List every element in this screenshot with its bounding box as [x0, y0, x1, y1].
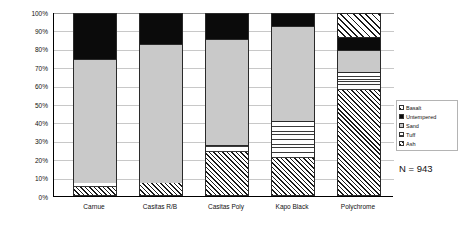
segment-untempered[interactable]: [205, 13, 249, 39]
y-tick-label: 10%: [8, 175, 48, 182]
legend-label: Tuff: [406, 132, 415, 138]
stacked-bar-chart: 100% 90% 80% 70% 60% 50% 40% 30% 20% 10%…: [0, 0, 465, 235]
y-tick-label: 70%: [8, 65, 48, 72]
segment-tuff[interactable]: [205, 145, 249, 152]
segment-sand[interactable]: [139, 44, 183, 183]
segment-ash[interactable]: [337, 90, 381, 196]
segment-untempered[interactable]: [271, 13, 315, 26]
sand-swatch-icon: [399, 123, 404, 128]
legend-item-sand[interactable]: Sand: [399, 121, 455, 130]
segment-ash[interactable]: [139, 183, 183, 196]
x-tick-label-polychrome: Polychrome: [313, 203, 403, 210]
segment-ash[interactable]: [73, 187, 117, 196]
segment-untempered[interactable]: [73, 13, 117, 59]
segment-tuff[interactable]: [73, 183, 117, 187]
y-tick-label: 0%: [8, 194, 48, 201]
legend-item-tuff[interactable]: Tuff: [399, 130, 455, 139]
segment-sand[interactable]: [205, 39, 249, 145]
y-tick-label: 100%: [8, 10, 48, 17]
bar-casitas-rb[interactable]: [139, 13, 183, 196]
bar-kapo-black[interactable]: [271, 13, 315, 196]
y-tick-label: 40%: [8, 120, 48, 127]
y-tick-label: 60%: [8, 83, 48, 90]
segment-tuff[interactable]: [271, 121, 315, 158]
segment-untempered[interactable]: [337, 37, 381, 50]
legend: Basalt Untempered Sand Tuff Ash: [396, 100, 458, 151]
plot-area: [53, 13, 393, 197]
segment-sand[interactable]: [271, 26, 315, 121]
legend-label: Untempered: [406, 114, 436, 120]
segment-sand[interactable]: [337, 50, 381, 72]
y-tick-label: 50%: [8, 102, 48, 109]
legend-label: Basalt: [406, 105, 421, 111]
ash-swatch-icon: [399, 141, 404, 146]
legend-label: Sand: [406, 123, 419, 129]
segment-ash[interactable]: [205, 152, 249, 196]
segment-ash[interactable]: [271, 158, 315, 196]
legend-label: Ash: [406, 141, 415, 147]
legend-item-basalt[interactable]: Basalt: [399, 103, 455, 112]
bar-carnue[interactable]: [73, 13, 117, 196]
basalt-swatch-icon: [399, 105, 404, 110]
segment-basalt[interactable]: [337, 13, 381, 37]
tuff-swatch-icon: [399, 132, 404, 137]
sample-size-annotation: N = 943: [399, 163, 433, 174]
y-tick-label: 20%: [8, 157, 48, 164]
bar-casitas-poly[interactable]: [205, 13, 249, 196]
segment-sand[interactable]: [73, 59, 117, 183]
y-tick-label: 80%: [8, 46, 48, 53]
legend-item-ash[interactable]: Ash: [399, 139, 455, 148]
segment-untempered[interactable]: [139, 13, 183, 44]
y-tick-label: 90%: [8, 28, 48, 35]
segment-tuff[interactable]: [337, 72, 381, 90]
bar-polychrome[interactable]: [337, 13, 381, 196]
y-tick-label: 30%: [8, 138, 48, 145]
untempered-swatch-icon: [399, 114, 404, 119]
legend-item-untempered[interactable]: Untempered: [399, 112, 455, 121]
